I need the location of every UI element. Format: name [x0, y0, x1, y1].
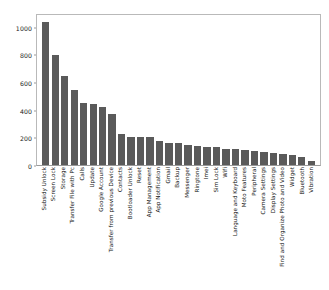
x-axis-tick: Display Settings	[270, 167, 277, 290]
bar	[232, 149, 239, 165]
x-axis-tick: Find and Organize Photo and Video	[280, 167, 287, 290]
x-axis-tick-label: Ringtone	[195, 167, 201, 193]
x-axis-tick: Camera Settings	[261, 167, 268, 290]
bar	[156, 141, 163, 165]
bar	[203, 147, 210, 165]
y-axis: 02004006008001000	[0, 14, 36, 166]
x-axis-tick-label: Vibration	[309, 167, 315, 193]
bar	[80, 103, 87, 165]
bar	[241, 150, 248, 165]
x-axis-tick-label: App Notification	[157, 167, 163, 213]
x-axis-tick-label: Calls	[80, 167, 86, 181]
x-axis-tick: Google Account	[98, 167, 105, 290]
bar	[165, 143, 172, 166]
bar	[146, 137, 153, 165]
bar	[61, 76, 68, 165]
bar	[270, 153, 277, 165]
y-axis-tick-label: 800	[20, 52, 32, 59]
x-axis-tick-label: Contacts	[118, 167, 124, 192]
bar	[184, 145, 191, 165]
x-axis-tick-label: Reset	[137, 167, 143, 183]
bar	[222, 149, 229, 165]
x-axis-tick: Reset	[137, 167, 144, 290]
x-axis-tick: Messenger	[184, 167, 191, 290]
bar	[289, 155, 296, 165]
bar	[175, 143, 182, 165]
x-axis-tick-label: Update	[90, 167, 96, 188]
bar-series	[37, 15, 320, 165]
bar	[42, 22, 49, 165]
x-axis-tick: Widget	[289, 167, 296, 290]
y-axis-tick-label: 200	[20, 135, 32, 142]
x-axis-tick-label: Storage	[61, 167, 67, 189]
x-axis-tick-label: Transfer from previous Device	[109, 167, 115, 252]
bar	[308, 161, 315, 165]
x-axis-tick: Transfer File with Pc	[70, 167, 77, 290]
y-axis-tick-label: 400	[20, 107, 32, 114]
x-axis-tick-label: Widget	[290, 167, 296, 187]
x-axis-tick: Bootloader Unlock	[127, 167, 134, 290]
x-axis: Subsidy UnlockScreen LockStorageTransfer…	[36, 167, 321, 290]
x-axis-tick-label: Google Account	[99, 167, 105, 212]
x-axis-tick: App Notification	[156, 167, 163, 290]
bar	[251, 151, 258, 165]
x-axis-tick-label: Moto Features	[242, 167, 248, 207]
x-axis-tick: Gmail	[165, 167, 172, 290]
x-axis-tick: Screen Lock	[51, 167, 58, 290]
y-axis-tick-label: 1000	[16, 24, 32, 31]
x-axis-tick-label: Backup	[176, 167, 182, 188]
y-axis-tick-label: 0	[28, 163, 32, 170]
x-axis-tick: Backup	[175, 167, 182, 290]
x-axis-tick-label: Messenger	[185, 167, 191, 198]
x-axis-tick-label: Transfer File with Pc	[71, 167, 77, 224]
x-axis-tick-label: Subsidy Unlock	[42, 167, 48, 210]
x-axis-tick: Storage	[60, 167, 67, 290]
x-axis-tick: Transfer from previous Device	[108, 167, 115, 290]
bar	[118, 134, 125, 165]
x-axis-tick: Moto Features	[242, 167, 249, 290]
bar	[71, 90, 78, 165]
x-axis-tick: Sim Lock	[213, 167, 220, 290]
x-axis-tick-label: Screen Lock	[52, 167, 58, 201]
x-axis-tick: Vibration	[308, 167, 315, 290]
x-axis-tick: Subsidy Unlock	[41, 167, 48, 290]
x-axis-tick-label: Display Settings	[271, 167, 277, 213]
x-axis-tick: Contacts	[117, 167, 124, 290]
bar-chart-figure: 02004006008001000 Subsidy UnlockScreen L…	[0, 0, 329, 290]
bar	[99, 107, 106, 165]
x-axis-tick: Ringtone	[194, 167, 201, 290]
bar	[213, 147, 220, 165]
x-axis-tick: Wifi	[222, 167, 229, 290]
x-axis-tick-label: Peripheral	[252, 167, 258, 196]
x-axis-tick: Language and Keyboard	[232, 167, 239, 290]
x-axis-tick-label: Wifi	[223, 167, 229, 178]
bar	[260, 152, 267, 165]
bar	[90, 104, 97, 165]
x-axis-tick: Imei	[203, 167, 210, 290]
x-axis-tick-label: Sim Lock	[214, 167, 220, 193]
x-axis-tick-label: Gmail	[166, 167, 172, 184]
x-axis-tick-label: Bootloader Unlock	[128, 167, 134, 219]
x-axis-tick-label: Find and Organize Photo and Video	[281, 167, 287, 267]
plot-area	[36, 14, 321, 166]
x-axis-tick-label: Imei	[204, 167, 210, 179]
bar	[279, 154, 286, 165]
bar	[108, 114, 115, 165]
bar	[127, 137, 134, 165]
x-axis-tick-label: Camera Settings	[262, 167, 268, 214]
bar	[194, 146, 201, 165]
x-axis-tick: Calls	[79, 167, 86, 290]
x-axis-tick: App Management	[146, 167, 153, 290]
x-axis-tick-label: App Management	[147, 167, 153, 217]
y-axis-tick-label: 600	[20, 80, 32, 87]
x-axis-tick: Bluetooth	[299, 167, 306, 290]
x-axis-tick-label: Bluetooth	[300, 167, 306, 195]
x-axis-tick: Peripheral	[251, 167, 258, 290]
x-axis-tick-label: Language and Keyboard	[233, 167, 239, 236]
bar	[52, 55, 59, 165]
x-axis-tick: Update	[89, 167, 96, 290]
bar	[137, 137, 144, 165]
bar	[298, 157, 305, 165]
